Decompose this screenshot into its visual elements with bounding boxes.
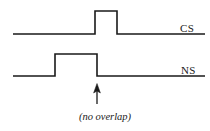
up-arrow-icon xyxy=(94,84,101,105)
no-overlap-caption: (no overlap) xyxy=(0,111,210,123)
cs-trace-label: CS xyxy=(180,23,194,34)
ns-waveform-path xyxy=(13,54,205,76)
timing-diagram-figure: CS NS (no overlap) xyxy=(0,0,210,131)
ns-trace-label: NS xyxy=(181,65,196,76)
cs-waveform-path xyxy=(13,11,205,34)
